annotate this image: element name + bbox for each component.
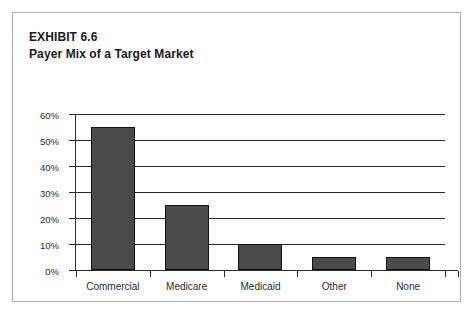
y-axis-tick: 0% <box>69 270 76 271</box>
bar-other[interactable] <box>312 257 356 270</box>
bars-group <box>76 114 445 270</box>
exhibit-title-block: EXHIBIT 6.6 Payer Mix of a Target Market <box>29 29 194 62</box>
x-axis-line <box>75 270 458 271</box>
exhibit-frame: EXHIBIT 6.6 Payer Mix of a Target Market… <box>12 12 461 302</box>
y-axis-tick-label: 0% <box>45 266 59 277</box>
x-axis-label-none: None <box>396 281 420 292</box>
x-axis-label-medicare: Medicare <box>166 281 207 292</box>
x-axis-label-commercial: Commercial <box>86 281 139 292</box>
x-axis-tick <box>445 271 446 277</box>
x-axis-tick <box>150 271 151 277</box>
bar-commercial[interactable] <box>91 127 135 270</box>
y-axis-tick-label: 10% <box>40 240 59 251</box>
y-axis-tick-label: 30% <box>40 188 59 199</box>
bar-medicare[interactable] <box>165 205 209 270</box>
exhibit-title: Payer Mix of a Target Market <box>29 46 194 63</box>
y-axis-tick: 10% <box>69 244 76 245</box>
x-axis-label-other: Other <box>322 281 347 292</box>
bar-slot <box>297 114 371 270</box>
bar-slot <box>224 114 298 270</box>
y-axis-tick-label: 60% <box>40 110 59 121</box>
x-axis-label-medicaid: Medicaid <box>240 281 280 292</box>
x-axis-tick <box>371 271 372 277</box>
y-axis-tick: 20% <box>69 218 76 219</box>
x-axis-tick <box>224 271 225 277</box>
x-axis-tick <box>76 271 77 277</box>
x-axis-tick <box>297 271 298 277</box>
x-axis-tick <box>458 271 459 277</box>
exhibit-number: EXHIBIT 6.6 <box>29 29 194 46</box>
y-axis-tick: 50% <box>69 140 76 141</box>
y-axis-tick-label: 50% <box>40 136 59 147</box>
bar-slot <box>371 114 445 270</box>
y-axis-tick: 30% <box>69 192 76 193</box>
bar-chart-plot-area: 0%10%20%30%40%50%60% CommercialMedicareM… <box>76 114 445 270</box>
bar-slot <box>76 114 150 270</box>
bar-none[interactable] <box>386 257 430 270</box>
y-axis-tick-label: 20% <box>40 214 59 225</box>
y-axis-tick: 40% <box>69 166 76 167</box>
bar-slot <box>150 114 224 270</box>
y-axis-tick: 60% <box>69 114 76 115</box>
y-axis-tick-label: 40% <box>40 162 59 173</box>
bar-medicaid[interactable] <box>238 244 282 270</box>
